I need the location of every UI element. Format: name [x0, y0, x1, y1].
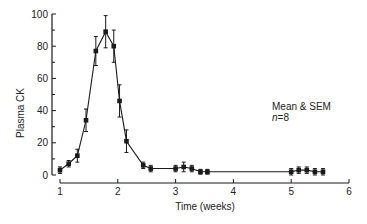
y-axis-title: Plasma CK [15, 88, 26, 138]
plasma-ck-chart: 020406080100 123456 Plasma CK Time (week… [0, 0, 367, 224]
annotation-mean-sem: Mean & SEM [272, 101, 331, 112]
data-point [321, 169, 326, 174]
annotation-n: n=8 [272, 112, 289, 123]
data-point [75, 153, 80, 158]
y-tick-label: 0 [42, 170, 48, 181]
x-tick-label: 4 [231, 186, 237, 197]
annotation-n-value: =8 [278, 112, 290, 123]
x-tick-label: 3 [173, 186, 179, 197]
data-point [141, 163, 146, 168]
data-point [124, 139, 129, 144]
data-point [189, 166, 194, 171]
data-point [173, 166, 178, 171]
data-point [313, 169, 318, 174]
y-axis: 020406080100 [31, 9, 56, 181]
x-tick-label: 5 [288, 186, 294, 197]
x-tick-label: 1 [57, 186, 63, 197]
data-point [117, 99, 122, 104]
data-point [84, 118, 89, 123]
data-point [58, 168, 63, 173]
y-tick-label: 60 [37, 73, 49, 84]
x-tick-label: 2 [115, 186, 121, 197]
series-plasma-ck [58, 16, 326, 175]
series-line-segment [60, 32, 207, 172]
data-point [289, 169, 294, 174]
data-point [66, 161, 71, 166]
data-point [296, 168, 301, 173]
data-point [111, 44, 116, 49]
data-point [103, 29, 108, 34]
data-point [205, 169, 210, 174]
y-tick-label: 80 [37, 41, 49, 52]
data-point [148, 166, 153, 171]
x-axis: 123456 [57, 179, 352, 197]
data-point [94, 49, 99, 54]
data-point [305, 168, 310, 173]
y-tick-label: 40 [37, 105, 49, 116]
x-axis-title: Time (weeks) [175, 201, 235, 212]
y-tick-label: 20 [37, 137, 49, 148]
data-point [198, 169, 203, 174]
x-tick-label: 6 [346, 186, 352, 197]
y-tick-label: 100 [31, 9, 48, 20]
data-point [181, 165, 186, 170]
